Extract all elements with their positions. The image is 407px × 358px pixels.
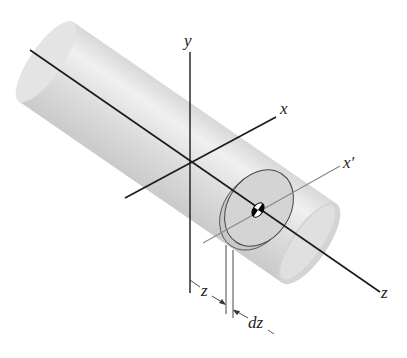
z-axis [30,50,380,292]
z-dimension-label: z [201,282,208,299]
y-axis-label: y [184,32,192,49]
diagram: y x x′ z z dz [0,0,407,358]
x-prime-axis-label: x′ [343,154,354,171]
cylinder-diagram-svg [0,0,407,358]
z-axis-label: z [381,284,388,301]
x-axis-label: x [280,100,288,117]
dz-dimension-label: dz [248,314,263,331]
